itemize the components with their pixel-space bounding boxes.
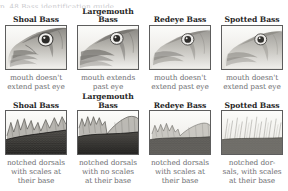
caption-shoal-bass-dorsal: notched dorsals with scales at their bas…	[7, 158, 65, 186]
cell-shoal-bass-dorsal: Shoal Bass	[0, 94, 72, 185]
shoal-bass-dorsal-image	[5, 110, 67, 155]
largemouth-bass-dorsal-image	[77, 110, 139, 155]
title-spotted-bass-dorsal: Spotted Bass	[225, 94, 280, 110]
clipped-header-text: p. 48 Bass identification guide	[0, 0, 288, 8]
caption-largemouth-bass-head: mouth extends past eye	[81, 73, 135, 92]
cell-largemouth-bass-head: Largemouth Bass mouth extends past eye	[72, 8, 144, 91]
cell-spotted-bass-dorsal: Spotted Bass	[216, 94, 288, 185]
head-profile-row: Shoal Bass	[0, 8, 288, 91]
cell-largemouth-bass-dorsal: Largemouth Bass notched do	[72, 94, 144, 185]
title-shoal-bass-dorsal: Shoal Bass	[13, 94, 59, 110]
caption-shoal-bass-head: mouth doesn't extend past eye	[7, 73, 64, 92]
cell-spotted-bass-head: Spotted Bass mouth doesn't extend past e…	[216, 8, 288, 91]
shoal-bass-head-image	[5, 25, 67, 70]
title-redeye-bass-head: Redeye Bass	[154, 8, 207, 25]
caption-spotted-bass-dorsal: notched dor- sals, with scales at their …	[223, 158, 282, 186]
cell-shoal-bass-head: Shoal Bass	[0, 8, 72, 91]
title-largemouth-bass-dorsal: Largemouth Bass	[82, 94, 134, 110]
caption-spotted-bass-head: mouth doesn't extend past eye	[223, 73, 280, 92]
caption-redeye-bass-head: mouth doesn't extend past eye	[151, 73, 208, 92]
bass-identification-figure: Shoal Bass	[0, 8, 288, 185]
caption-largemouth-bass-dorsal: notched dorsals with no scales at their …	[79, 158, 137, 186]
caption-redeye-bass-dorsal: notched dorsals with scales at their bas…	[151, 158, 209, 186]
cell-redeye-bass-dorsal: Redeye Bass notched dorsals with scales …	[144, 94, 216, 185]
largemouth-bass-head-image	[77, 25, 139, 70]
spotted-bass-head-image	[221, 25, 283, 70]
redeye-bass-dorsal-image	[149, 110, 211, 155]
title-redeye-bass-dorsal: Redeye Bass	[154, 94, 207, 110]
cell-redeye-bass-head: Redeye Bass mouth doesn't extend past ey…	[144, 8, 216, 91]
title-largemouth-bass-head: Largemouth Bass	[82, 8, 134, 25]
dorsal-fin-row: Shoal Bass	[0, 94, 288, 185]
redeye-bass-head-image	[149, 25, 211, 70]
spotted-bass-dorsal-image	[221, 110, 283, 155]
title-shoal-bass-head: Shoal Bass	[13, 8, 59, 25]
title-spotted-bass-head: Spotted Bass	[225, 8, 280, 25]
